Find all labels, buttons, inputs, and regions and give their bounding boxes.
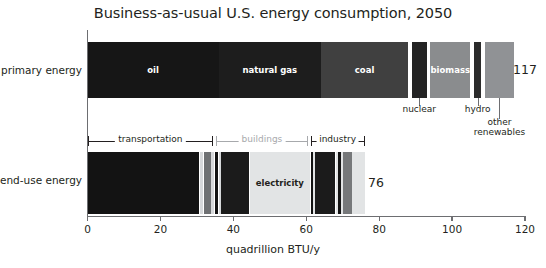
x-tick-label-0: 0 [84, 223, 91, 235]
segment-natural-gas: natural gas [219, 42, 321, 98]
x-tick-label-120: 120 [515, 223, 535, 235]
x-tick-20 [160, 216, 161, 221]
x-tick-label-100: 100 [442, 223, 462, 235]
bracket-cap-right [364, 136, 365, 146]
segment-1-2 [204, 152, 211, 214]
segment-1-1 [200, 152, 203, 214]
callout-label-other-renewables: otherrenewables [474, 118, 526, 137]
segment-label-oil: oil [88, 65, 219, 75]
leader-line-other-renewables [499, 98, 500, 119]
segment-label-coal: coal [321, 65, 409, 75]
x-tick-label-20: 20 [154, 223, 167, 235]
callout-label-hydro: hydro [465, 105, 491, 115]
bracket-cap-right [307, 136, 308, 146]
segment-1-6 [221, 152, 249, 214]
bracket-label-buildings: buildings [239, 134, 286, 144]
x-tick-100 [451, 216, 452, 221]
chart-root: Business-as-usual U.S. energy consumptio… [0, 0, 546, 268]
total-end-use-energy: 76 [368, 175, 384, 190]
bracket-cap-left [88, 136, 89, 146]
segment-label-electricity: electricity [250, 178, 310, 188]
bracket-label-transportation: transportation [115, 134, 185, 144]
segment-1-10 [315, 152, 335, 214]
x-tick-60 [306, 216, 307, 221]
bracket-buildings: buildings [216, 136, 308, 146]
bracket-cap-right [212, 136, 213, 146]
x-tick-40 [233, 216, 234, 221]
row-label-end-use-energy: end-use energy [0, 174, 82, 186]
bracket-industry: industry [311, 136, 365, 146]
chart-title: Business-as-usual U.S. energy consumptio… [0, 5, 546, 21]
row-label-primary-energy: primary energy [0, 64, 82, 76]
x-tick-label-40: 40 [227, 223, 240, 235]
x-tick-120 [524, 216, 525, 221]
segment-label-biomass: biomass [430, 65, 470, 75]
segment-coal: coal [321, 42, 409, 98]
segment-oil: oil [88, 42, 219, 98]
segment-1-15 [352, 152, 364, 214]
segment-1-3 [211, 152, 213, 214]
bracket-cap-left [216, 136, 217, 146]
segment-label-natural-gas: natural gas [219, 65, 321, 75]
x-tick-0 [87, 216, 88, 221]
x-axis-caption: quadrillion BTU/y [0, 243, 546, 256]
segment-hydro [474, 42, 481, 98]
segment-biomass: biomass [430, 42, 470, 98]
segment-other-renewables [485, 42, 514, 98]
segment-nuclear [412, 42, 427, 98]
x-tick-label-80: 80 [372, 223, 385, 235]
x-tick-label-60: 60 [300, 223, 313, 235]
bracket-cap-left [311, 136, 312, 146]
segment-electricity: electricity [250, 152, 310, 214]
segment-1-0 [88, 152, 199, 214]
x-tick-80 [379, 216, 380, 221]
total-primary-energy: 117 [513, 62, 537, 77]
callout-label-nuclear: nuclear [402, 105, 436, 115]
bracket-label-industry: industry [316, 134, 359, 144]
bracket-transportation: transportation [88, 136, 214, 146]
segment-1-14 [343, 152, 352, 214]
